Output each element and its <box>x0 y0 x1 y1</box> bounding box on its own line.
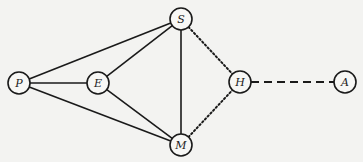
edges-group <box>29 23 334 141</box>
node-m: M <box>170 134 192 156</box>
node-a: A <box>334 71 356 93</box>
edge-p-m <box>29 87 170 141</box>
node-label: S <box>177 13 185 26</box>
node-e: E <box>87 72 109 94</box>
edge-p-s <box>29 23 171 79</box>
edge-e-m <box>107 90 172 139</box>
node-label: A <box>340 76 349 89</box>
node-label: P <box>14 77 23 90</box>
node-label: E <box>93 77 102 90</box>
node-p: P <box>8 72 30 94</box>
node-s: S <box>170 8 192 30</box>
edge-e-s <box>107 26 173 77</box>
network-diagram: PESMHA <box>0 0 363 162</box>
node-label: M <box>174 139 187 152</box>
edge-s-h <box>189 27 233 74</box>
edge-m-h <box>189 90 233 137</box>
node-h: H <box>229 71 251 93</box>
node-label: H <box>234 76 245 89</box>
